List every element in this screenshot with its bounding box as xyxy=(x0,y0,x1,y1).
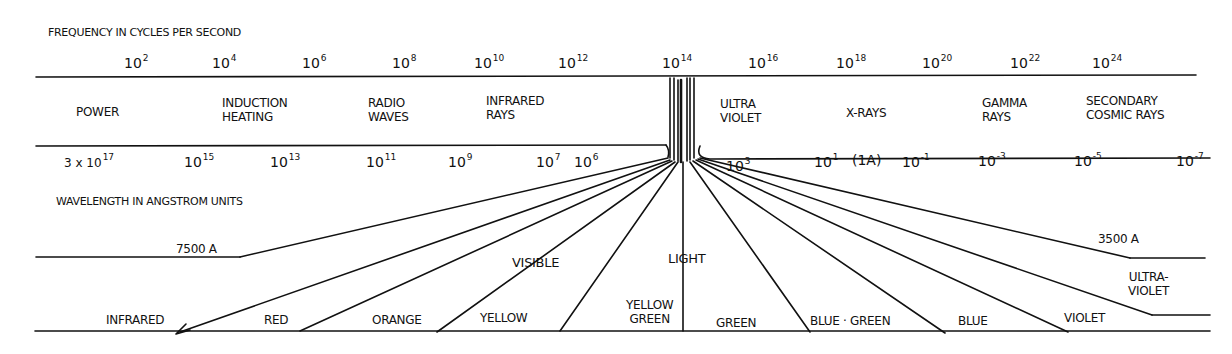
wavelength-tick: 106 xyxy=(574,152,599,170)
color-yellow: YELLOW xyxy=(480,311,527,325)
diagram-lines xyxy=(0,0,1232,354)
wavelength-tick: 103 xyxy=(726,156,751,174)
band-induction-heating: INDUCTIONHEATING xyxy=(222,96,288,124)
wavelength-tick: (1A) xyxy=(852,152,881,168)
boundary-7500a: 7500 A xyxy=(176,242,217,256)
band-secondary-cosmic-rays: SECONDARYCOSMIC RAYS xyxy=(1086,94,1164,122)
band-power: POWER xyxy=(76,105,119,119)
frequency-tick: 1012 xyxy=(558,53,588,71)
frequency-tick: 104 xyxy=(212,53,237,71)
color-blue-green: BLUE · GREEN xyxy=(810,314,890,328)
frequency-tick: 1022 xyxy=(1010,53,1040,71)
wavelength-separator-right xyxy=(699,146,1210,159)
wavelength-separator-left xyxy=(36,145,666,146)
frequency-axis-line xyxy=(36,75,1196,77)
wavelength-tick: 10-3 xyxy=(978,151,1006,169)
wavelength-axis-title: WAVELENGTH IN ANGSTROM UNITS xyxy=(56,195,243,209)
light-label: LIGHT xyxy=(668,252,705,266)
frequency-tick: 106 xyxy=(302,53,327,71)
color-green: GREEN xyxy=(716,316,756,330)
wavelength-tick: 1013 xyxy=(270,152,300,170)
frequency-tick: 1016 xyxy=(748,53,778,71)
color-infrared: INFRARED xyxy=(106,313,164,327)
color-orange: ORANGE xyxy=(372,313,422,327)
band-gamma-rays: GAMMARAYS xyxy=(982,96,1027,124)
wavelength-tick: 1011 xyxy=(366,152,396,170)
wavelength-tick: 10-7 xyxy=(1176,151,1204,169)
color-ultraviolet: ULTRA-VIOLET xyxy=(1128,270,1169,298)
color-yellow-green: YELLOWGREEN xyxy=(626,298,673,326)
frequency-axis-title: FREQUENCY IN CYCLES PER SECOND xyxy=(48,26,241,40)
band-x-rays: X-RAYS xyxy=(846,106,886,120)
frequency-tick: 1020 xyxy=(922,53,952,71)
visible-label: VISIBLE xyxy=(512,256,559,270)
frequency-tick: 1014 xyxy=(662,53,692,71)
wavelength-tick: 1015 xyxy=(184,152,214,170)
wavelength-tick: 109 xyxy=(448,152,473,170)
color-violet: VIOLET xyxy=(1064,311,1105,325)
frequency-tick: 102 xyxy=(124,53,149,71)
wavelength-tick: 10-5 xyxy=(1074,151,1102,169)
band-infrared-rays: INFRAREDRAYS xyxy=(486,94,544,122)
color-red: RED xyxy=(264,313,288,327)
boundary-3500a: 3500 A xyxy=(1098,232,1139,246)
frequency-tick: 108 xyxy=(392,53,417,71)
color-blue: BLUE xyxy=(958,314,988,328)
wavelength-tick: 107 xyxy=(536,152,561,170)
frequency-tick: 1024 xyxy=(1092,53,1122,71)
wavelength-tick: 101 xyxy=(814,152,839,170)
band-radio-waves: RADIOWAVES xyxy=(368,96,409,124)
wavelength-tick: 10-1 xyxy=(902,152,930,170)
band-ultraviolet: ULTRAVIOLET xyxy=(720,97,761,125)
frequency-tick: 1018 xyxy=(836,53,866,71)
frequency-tick: 1010 xyxy=(474,53,504,71)
wavelength-tick: 3 x 1017 xyxy=(64,152,114,170)
